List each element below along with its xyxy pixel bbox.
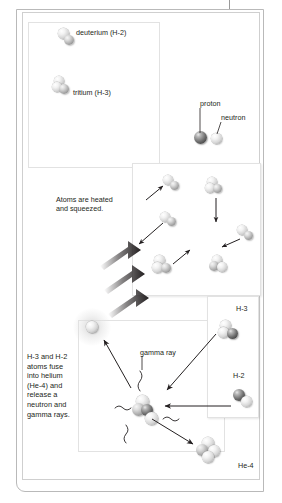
proton-sphere bbox=[194, 131, 207, 144]
gamma-ray-label: gamma ray bbox=[140, 349, 176, 358]
nucleon bbox=[244, 231, 253, 240]
deuterium-label: deuterium (H-2) bbox=[76, 29, 126, 38]
nucleon bbox=[161, 263, 171, 273]
neutron-label: neutron bbox=[221, 114, 245, 123]
nucleon bbox=[217, 262, 227, 272]
emitted-neutron bbox=[86, 321, 98, 333]
deuterium-neutron bbox=[64, 35, 74, 45]
nucleon bbox=[241, 396, 252, 407]
h3-label: H-3 bbox=[236, 305, 248, 314]
he4-label: He-4 bbox=[238, 462, 254, 471]
neutron-sphere bbox=[211, 133, 222, 144]
nucleon bbox=[167, 217, 176, 226]
nucleon bbox=[227, 328, 238, 339]
fusion-caption: H-3 and H-2 atoms fuse into helium (He-4… bbox=[27, 352, 75, 419]
tritium-nucleon-3 bbox=[59, 84, 69, 94]
nucleon bbox=[213, 184, 222, 193]
heating-caption: Atoms are heated and squeezed. bbox=[56, 195, 136, 214]
h2-label: H-2 bbox=[233, 372, 245, 381]
nucleon bbox=[170, 181, 179, 190]
fusion-diagram-figure: deuterium (H-2) tritium (H-3) proton neu… bbox=[0, 0, 282, 503]
nucleon bbox=[202, 451, 214, 463]
nucleon bbox=[145, 412, 158, 425]
proton-label: proton bbox=[200, 100, 220, 109]
tritium-label: tritium (H-3) bbox=[73, 89, 111, 98]
